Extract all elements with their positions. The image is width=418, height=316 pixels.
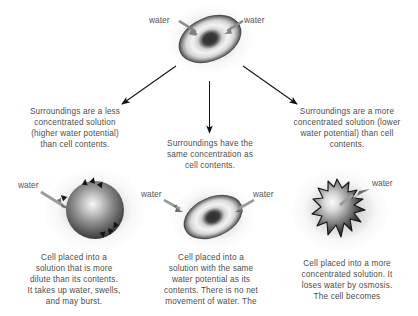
caption-line: It takes up water, swells, [6, 285, 142, 296]
result-text-hypotonic: Cell placed into a solution that is more… [6, 252, 142, 307]
water-label-isotonic-left: water [141, 189, 161, 199]
caption-line: water potential as its [140, 274, 282, 285]
caption-line: concentrated solution. It [278, 269, 416, 280]
caption-line: Surroundings are a less [10, 106, 140, 117]
caption-line: cell contents. [142, 160, 278, 171]
caption-line: Cell placed into a more [278, 258, 416, 269]
caption-line: contents. There is no net [140, 285, 282, 296]
water-arrow-isotonic-left [163, 199, 185, 214]
caption-line: and may burst. [6, 296, 142, 307]
caption-line: dilute than its contents. [6, 274, 142, 285]
water-arrow-isotonic-right [233, 199, 255, 214]
burst-spike [82, 179, 89, 186]
caption-line: water potential) than cell [278, 128, 416, 139]
water-inflow-arrow-left [178, 20, 200, 36]
caption-line: (higher water potential) [10, 128, 140, 139]
caption-line: movement of water. The [140, 296, 282, 307]
caption-line: Surroundings have the [142, 138, 278, 149]
water-label-isotonic-right: water [253, 189, 273, 199]
caption-line: solution that is more [6, 263, 142, 274]
caption-line: loses water by osmosis. [278, 280, 416, 291]
water-label-hypertonic: water [372, 178, 392, 188]
condition-text-hypertonic: Surroundings are a more concentrated sol… [278, 106, 416, 150]
caption-line: Surroundings are a more [278, 106, 416, 117]
caption-line: solution with the same [140, 263, 282, 274]
caption-line: than cell contents. [10, 139, 140, 150]
caption-line: concentrated solution [10, 117, 140, 128]
condition-text-isotonic: Surroundings have the same concentration… [142, 138, 278, 171]
caption-line: contents. [278, 139, 416, 150]
caption-line: Cell placed into a [140, 252, 282, 263]
result-text-isotonic: Cell placed into a solution with the sam… [140, 252, 282, 307]
caption-line: Cell placed into a [6, 252, 142, 263]
burst-spike [100, 232, 107, 239]
water-outflow-arrow-hypertonic [337, 187, 371, 207]
osmosis-diagram: water water Surroundings are a less conc… [0, 0, 418, 316]
caption-line: concentrated solution (lower [278, 117, 416, 128]
condition-text-hypotonic: Surroundings are a less concentrated sol… [10, 106, 140, 150]
caption-line: same concentration as [142, 149, 278, 160]
water-inflow-arrow-hypotonic [40, 190, 74, 212]
water-label-top-right: water [244, 15, 264, 25]
top-cell-group [164, 4, 256, 74]
water-inflow-arrow-right [222, 20, 244, 36]
water-label-hypotonic: water [18, 180, 38, 190]
result-text-hypertonic: Cell placed into a more concentrated sol… [278, 258, 416, 302]
isotonic-cell-group [172, 186, 254, 248]
caption-line: The cell becomes [278, 291, 416, 302]
water-label-top-left: water [149, 15, 169, 25]
